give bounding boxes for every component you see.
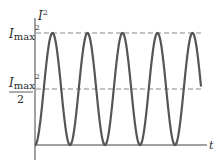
half-label-denominator: 2 [17, 93, 24, 106]
y-axis-label: I2 [37, 8, 48, 23]
x-axis-label: t [209, 139, 214, 152]
chart: I2 t Imax2 Imax2 2 [0, 0, 216, 166]
